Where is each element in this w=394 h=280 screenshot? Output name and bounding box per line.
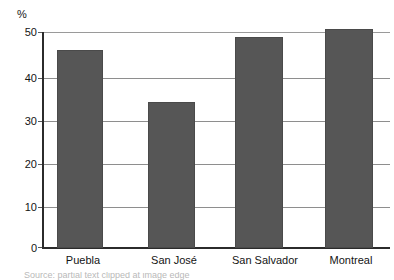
bar-montreal[interactable] (325, 29, 373, 248)
clipped-caption: Source: partial text clipped at image ed… (0, 272, 394, 280)
plot-area (42, 32, 390, 248)
clipped-caption-text: Source: partial text clipped at image ed… (24, 272, 190, 280)
y-tick-label-10: 10 (7, 202, 37, 213)
y-axis-line (42, 32, 44, 248)
y-axis-unit-label: % (17, 9, 27, 20)
y-tick-mark-10 (38, 207, 42, 208)
y-tick-label-0: 0 (7, 243, 37, 254)
x-category-label-montreal: Montreal (311, 254, 391, 266)
y-axis-tick-labels: 50 40 30 20 10 0 (6, 32, 37, 248)
bar-chart-figure: % 50 40 30 20 10 0 Puebla San José San S… (0, 0, 394, 280)
x-category-label-san-salvador: San Salvador (213, 254, 317, 266)
y-tick-mark-0 (38, 247, 42, 248)
y-tick-mark-40 (38, 78, 42, 79)
y-tick-mark-20 (38, 164, 42, 165)
y-tick-mark-30 (38, 121, 42, 122)
x-category-label-san-jose: San José (126, 254, 222, 266)
y-tick-label-20: 20 (7, 159, 37, 170)
bar-puebla[interactable] (57, 50, 103, 248)
y-tick-label-40: 40 (7, 73, 37, 84)
y-tick-label-50: 50 (7, 27, 37, 38)
bar-san-jose[interactable] (148, 102, 195, 248)
y-tick-label-30: 30 (7, 116, 37, 127)
x-category-label-puebla: Puebla (37, 254, 129, 266)
bar-san-salvador[interactable] (235, 37, 283, 248)
y-tick-mark-50 (38, 32, 42, 33)
